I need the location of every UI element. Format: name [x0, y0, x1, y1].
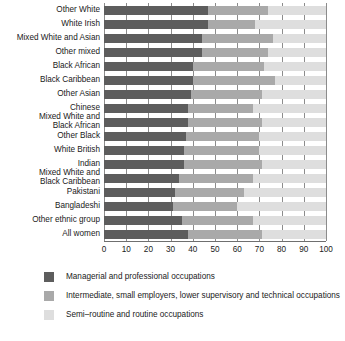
bar-row: Other Black [0, 129, 345, 143]
bar-segment [104, 188, 175, 197]
bar-segment [179, 174, 252, 183]
x-tick-label: 30 [166, 245, 175, 254]
bar-track [104, 202, 326, 211]
legend-item: Semi–routine and routine occupations [0, 310, 345, 320]
bar-track [104, 48, 326, 57]
bar-segment [208, 20, 255, 29]
bar-row: Other mixed [0, 45, 345, 59]
legend-label: Managerial and professional occupations [54, 272, 215, 282]
category-label: Other mixed [0, 48, 104, 57]
bar-segment [188, 118, 261, 127]
bar-track [104, 20, 326, 29]
bar-segment [262, 118, 326, 127]
legend-swatch [44, 272, 54, 282]
bar-segment [104, 160, 184, 169]
bar-segment [191, 90, 262, 99]
category-label: Black Caribbean [0, 76, 104, 85]
bar-segment [253, 216, 326, 225]
bar-segment [273, 34, 326, 43]
bar-segment [208, 6, 268, 15]
bar-segment [202, 48, 269, 57]
category-label: Indian [0, 160, 104, 169]
bar-track [104, 174, 326, 183]
category-label: Mixed White and Black Caribbean [0, 169, 104, 186]
category-label: Other White [0, 6, 104, 15]
bar-segment [259, 132, 326, 141]
bar-segment [253, 104, 326, 113]
bar-segment [104, 132, 186, 141]
bar-track [104, 132, 326, 141]
bar-segment [268, 48, 326, 57]
bar-row: Other ethnic group [0, 213, 345, 227]
bar-segment [184, 160, 262, 169]
bar-segment [262, 230, 326, 239]
bar-segment [237, 202, 326, 211]
bar-segment [104, 146, 184, 155]
category-label: Black African [0, 62, 104, 71]
bar-segment [264, 62, 326, 71]
bar-row: White Irish [0, 17, 345, 31]
bar-segment [188, 230, 261, 239]
bar-track [104, 6, 326, 15]
category-label: Bangladeshi [0, 202, 104, 211]
category-label: Other ethnic group [0, 216, 104, 225]
bar-segment [175, 188, 244, 197]
bar-track [104, 146, 326, 155]
bar-segment [259, 146, 326, 155]
bar-segment [268, 6, 326, 15]
bar-segment [104, 62, 193, 71]
bar-row: Mixed White and Black Caribbean [0, 171, 345, 185]
bar-row: Bangladeshi [0, 199, 345, 213]
bar-segment [244, 188, 326, 197]
bar-segment [173, 202, 237, 211]
bar-row: Other White [0, 3, 345, 17]
bar-track [104, 34, 326, 43]
bar-segment [182, 216, 253, 225]
bar-segment [104, 6, 208, 15]
x-tick-label: 0 [102, 245, 107, 254]
bar-segment [104, 90, 191, 99]
bar-segment [253, 174, 326, 183]
category-label: Other Asian [0, 90, 104, 99]
x-tick-label: 50 [210, 245, 219, 254]
bar-row: White British [0, 143, 345, 157]
category-label: Chinese [0, 104, 104, 113]
bar-segment [104, 202, 173, 211]
legend-label: Semi–routine and routine occupations [54, 310, 203, 320]
chart-legend: Managerial and professional occupationsI… [0, 272, 345, 329]
bar-segment [202, 34, 273, 43]
bar-row: Pakistani [0, 185, 345, 199]
bar-segment [262, 160, 326, 169]
bar-row: All women [0, 227, 345, 241]
bar-row: Black African [0, 59, 345, 73]
bar-track [104, 160, 326, 169]
bar-segment [104, 118, 188, 127]
bar-segment [275, 76, 326, 85]
axis-baseline [104, 241, 326, 242]
bar-track [104, 104, 326, 113]
x-tick-label: 80 [277, 245, 286, 254]
x-tick-label: 40 [188, 245, 197, 254]
bar-segment [186, 132, 259, 141]
bar-track [104, 62, 326, 71]
category-label: All women [0, 230, 104, 239]
bar-segment [193, 62, 264, 71]
bar-segment [104, 34, 202, 43]
x-tick-label: 100 [319, 245, 333, 254]
category-label: Pakistani [0, 188, 104, 197]
legend-swatch [44, 310, 54, 320]
category-label: White Irish [0, 20, 104, 29]
x-tick-label: 10 [122, 245, 131, 254]
x-axis: 0102030405060708090100 [104, 245, 326, 259]
bar-track [104, 90, 326, 99]
bar-track [104, 216, 326, 225]
legend-item: Managerial and professional occupations [0, 272, 345, 282]
bar-row: Mixed White and Black African [0, 115, 345, 129]
x-tick-label: 20 [144, 245, 153, 254]
category-label: Mixed White and Asian [0, 34, 104, 43]
x-tick-label: 90 [299, 245, 308, 254]
plot-area: Other WhiteWhite IrishMixed White and As… [0, 0, 345, 262]
bar-segment [104, 230, 188, 239]
bar-row: Mixed White and Asian [0, 31, 345, 45]
bar-track [104, 188, 326, 197]
